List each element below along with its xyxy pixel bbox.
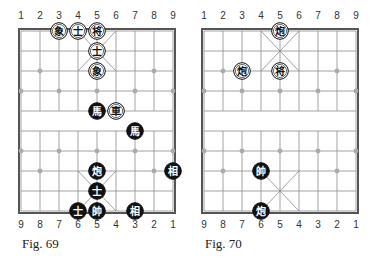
file-label-top: 9: [170, 10, 176, 21]
piece-white: 将: [272, 63, 289, 80]
position-marker: [202, 89, 207, 94]
position-marker: [221, 69, 226, 74]
position-marker: [171, 149, 176, 154]
piece-black: 士: [70, 203, 87, 220]
piece-black: 相: [127, 203, 144, 220]
piece-label: 炮: [236, 65, 247, 77]
file-label-top: 7: [132, 10, 138, 21]
file-label-bottom: 7: [239, 219, 245, 230]
piece-white: 炮: [234, 63, 251, 80]
file-label-top: 5: [94, 10, 100, 21]
file-label-top: 3: [56, 10, 62, 21]
position-marker: [354, 89, 359, 94]
piece-white: 車: [108, 103, 125, 120]
position-marker: [278, 89, 283, 94]
piece-label: 将: [275, 65, 285, 77]
piece-label: 相: [168, 165, 178, 177]
piece-white: 士: [89, 43, 106, 60]
piece-label: 士: [92, 45, 102, 57]
file-label-top: 8: [334, 10, 340, 21]
position-marker: [240, 89, 245, 94]
piece-black: 帥: [89, 203, 106, 220]
position-marker: [19, 149, 24, 154]
piece-black: 炮: [253, 203, 270, 220]
figure-caption-69: Fig. 69: [22, 236, 59, 252]
file-label-top: 7: [315, 10, 321, 21]
position-marker: [240, 149, 245, 154]
file-label-bottom: 2: [334, 219, 340, 230]
file-label-bottom: 8: [220, 219, 226, 230]
file-label-bottom: 1: [170, 219, 176, 230]
position-marker: [152, 69, 157, 74]
file-label-bottom: 3: [132, 219, 138, 230]
position-marker: [335, 169, 340, 174]
file-label-top: 8: [151, 10, 157, 21]
position-marker: [335, 69, 340, 74]
file-label-bottom: 2: [151, 219, 157, 230]
position-marker: [171, 89, 176, 94]
piece-label: 相: [130, 205, 140, 217]
file-label-top: 1: [201, 10, 207, 21]
piece-label: 車: [111, 105, 121, 117]
piece-black: 馬: [127, 123, 144, 140]
xiangqi-board-fig69: 123456789987654321象士将士象馬車馬炮相士士帥相: [0, 0, 190, 230]
file-label-top: 4: [258, 10, 264, 21]
piece-label: 象: [92, 65, 102, 77]
piece-label: 帥: [256, 165, 266, 177]
piece-label: 士: [73, 205, 83, 217]
position-marker: [316, 149, 321, 154]
file-label-bottom: 4: [296, 219, 302, 230]
position-marker: [38, 169, 43, 174]
file-label-top: 5: [277, 10, 283, 21]
file-label-bottom: 6: [258, 219, 264, 230]
position-marker: [152, 169, 157, 174]
position-marker: [57, 89, 62, 94]
piece-black: 馬: [89, 103, 106, 120]
file-label-bottom: 3: [315, 219, 321, 230]
file-label-top: 6: [296, 10, 302, 21]
board-fig69: 123456789987654321象士将士象馬車馬炮相士士帥相: [0, 0, 190, 230]
figure-caption-70: Fig. 70: [205, 236, 242, 252]
position-marker: [316, 89, 321, 94]
xiangqi-board-fig70: 123456789987654321炮炮将帥炮: [183, 0, 376, 230]
file-label-bottom: 7: [56, 219, 62, 230]
position-marker: [354, 149, 359, 154]
file-label-top: 1: [18, 10, 24, 21]
file-label-bottom: 5: [277, 219, 283, 230]
file-label-bottom: 9: [201, 219, 207, 230]
file-label-top: 3: [239, 10, 245, 21]
file-label-bottom: 8: [37, 219, 43, 230]
position-marker: [57, 149, 62, 154]
piece-label: 炮: [274, 25, 285, 37]
file-label-bottom: 5: [94, 219, 100, 230]
piece-label: 帥: [92, 205, 102, 217]
file-label-top: 9: [353, 10, 359, 21]
file-label-top: 6: [113, 10, 119, 21]
piece-black: 炮: [89, 163, 106, 180]
piece-label: 士: [73, 25, 83, 37]
file-label-top: 2: [37, 10, 43, 21]
file-label-bottom: 9: [18, 219, 24, 230]
position-marker: [95, 149, 100, 154]
position-marker: [19, 89, 24, 94]
piece-black: 帥: [253, 163, 270, 180]
position-marker: [278, 149, 283, 154]
board-fig70: 123456789987654321炮炮将帥炮: [183, 0, 376, 230]
piece-label: 炮: [91, 165, 102, 177]
position-marker: [133, 149, 138, 154]
position-marker: [202, 149, 207, 154]
piece-white: 士: [70, 23, 87, 40]
position-marker: [38, 69, 43, 74]
piece-label: 将: [92, 25, 102, 37]
file-label-top: 4: [75, 10, 81, 21]
position-marker: [133, 89, 138, 94]
piece-label: 馬: [92, 106, 102, 117]
file-label-bottom: 6: [75, 219, 81, 230]
position-marker: [221, 169, 226, 174]
position-marker: [95, 89, 100, 94]
piece-label: 炮: [255, 205, 266, 217]
file-label-top: 2: [220, 10, 226, 21]
piece-white: 象: [51, 23, 68, 40]
piece-label: 象: [54, 25, 64, 37]
file-label-bottom: 1: [353, 219, 359, 230]
